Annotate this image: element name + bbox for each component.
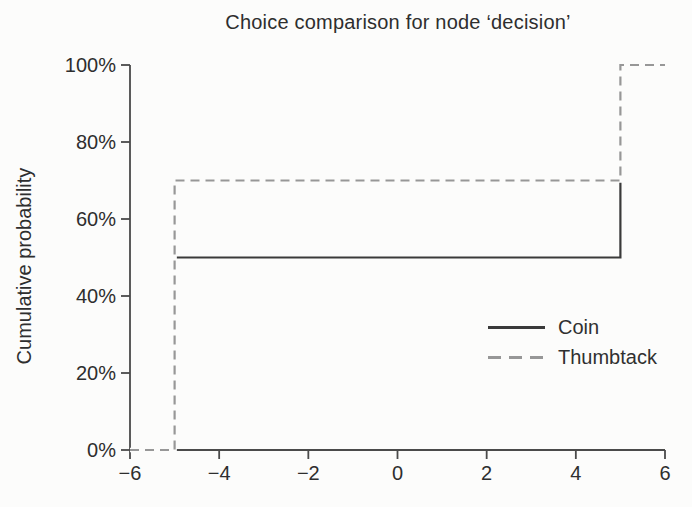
y-tick-label: 20%	[76, 362, 116, 384]
x-tick-label: −2	[297, 462, 320, 484]
x-tick-label: 0	[392, 462, 403, 484]
x-tick-label: −6	[119, 462, 142, 484]
y-tick-label: 100%	[65, 54, 116, 76]
coin-line-sample	[488, 326, 545, 329]
y-tick-label: 40%	[76, 285, 116, 307]
legend: Coin Thumbtack	[488, 312, 657, 372]
x-tick-label: 6	[659, 462, 670, 484]
legend-label-coin: Coin	[558, 316, 599, 339]
coin-line	[130, 65, 665, 450]
legend-label-thumbtack: Thumbtack	[558, 346, 657, 369]
plot-area: 0%20%40%60%80%100%−6−4−20246	[0, 0, 692, 507]
x-tick-label: 4	[570, 462, 581, 484]
choice-comparison-figure: Choice comparison for node ‘decision’ Cu…	[0, 0, 692, 507]
legend-item-thumbtack: Thumbtack	[488, 342, 657, 372]
thumbtack-line-sample	[488, 356, 545, 359]
y-tick-label: 0%	[87, 439, 116, 461]
x-tick-label: −4	[208, 462, 231, 484]
y-tick-label: 60%	[76, 208, 116, 230]
y-tick-label: 80%	[76, 131, 116, 153]
x-tick-label: 2	[481, 462, 492, 484]
legend-item-coin: Coin	[488, 312, 657, 342]
